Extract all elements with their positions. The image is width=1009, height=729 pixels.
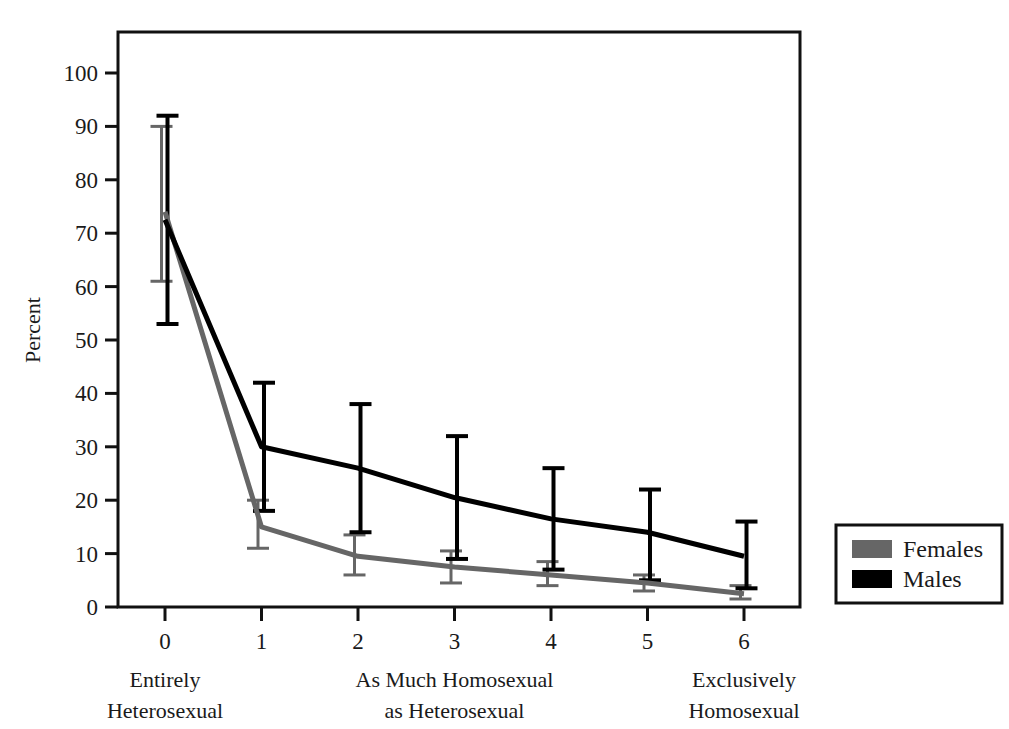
x-tick-label: 0 <box>159 629 171 654</box>
x-axis-group-label: Exclusively <box>692 667 796 692</box>
y-tick-label: 50 <box>75 328 98 353</box>
x-axis-group-label: as Heterosexual <box>385 698 525 723</box>
y-tick-label: 0 <box>87 595 99 620</box>
x-tick-label: 5 <box>642 629 654 654</box>
x-axis-group-labels: EntirelyHeterosexualAs Much Homosexualas… <box>107 667 800 723</box>
x-tick-label: 4 <box>545 629 557 654</box>
y-tick-label: 20 <box>75 488 98 513</box>
x-axis-group-label: Entirely <box>130 667 201 692</box>
line-chart: 0102030405060708090100 0123456 Percent E… <box>0 0 1009 729</box>
y-tick-label: 60 <box>75 275 98 300</box>
legend-label-females: Females <box>903 536 983 562</box>
y-tick-label: 70 <box>75 221 98 246</box>
x-tick-label: 3 <box>449 629 461 654</box>
x-tick-label: 2 <box>352 629 364 654</box>
y-axis-ticks: 0102030405060708090100 <box>64 61 119 620</box>
legend-swatch-females <box>852 540 892 558</box>
figure-container: 0102030405060708090100 0123456 Percent E… <box>0 0 1009 729</box>
y-tick-label: 100 <box>64 61 99 86</box>
y-axis-title: Percent <box>20 297 45 363</box>
y-tick-label: 40 <box>75 381 98 406</box>
x-axis-group-label: As Much Homosexual <box>356 667 554 692</box>
legend: Females Males <box>836 525 1002 603</box>
y-tick-label: 90 <box>75 114 98 139</box>
x-axis-group-label: Heterosexual <box>107 698 223 723</box>
legend-swatch-males <box>852 570 892 588</box>
x-axis-group-label: Homosexual <box>688 698 799 723</box>
x-tick-label: 1 <box>256 629 268 654</box>
y-tick-label: 30 <box>75 435 98 460</box>
y-tick-label: 80 <box>75 168 98 193</box>
y-tick-label: 10 <box>75 542 98 567</box>
x-tick-label: 6 <box>738 629 750 654</box>
legend-label-males: Males <box>903 566 962 592</box>
x-axis-ticks: 0123456 <box>159 607 750 654</box>
